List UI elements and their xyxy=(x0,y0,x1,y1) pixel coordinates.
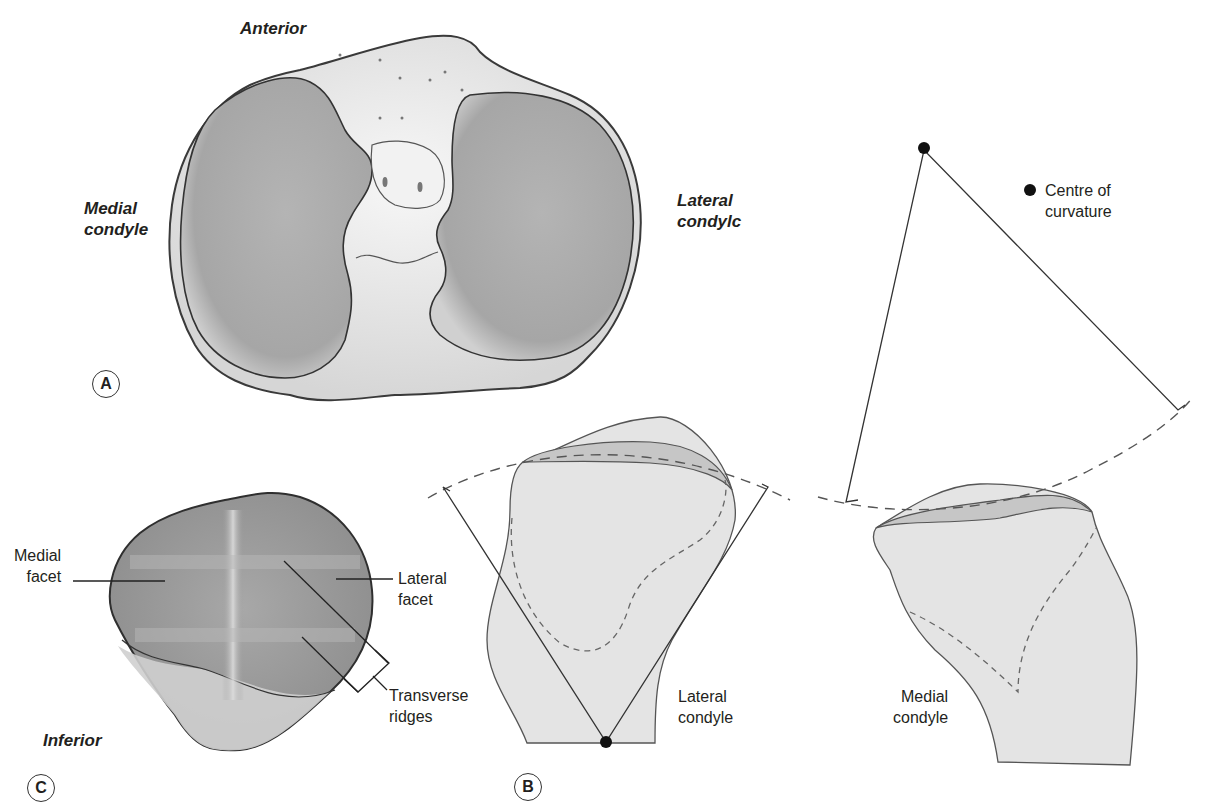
label-medial-condyle-b: Medial condyle xyxy=(893,686,948,728)
legend-centre-of-curvature: Centre of curvature xyxy=(1045,180,1112,222)
medial-radii xyxy=(846,150,1185,502)
lateral-centre-of-curvature xyxy=(600,736,612,748)
legend-marker-icon xyxy=(1024,184,1036,196)
panel-b-medial-profile xyxy=(818,142,1193,765)
panel-badge-a: A xyxy=(92,370,120,398)
label-medial-facet: Medial facet xyxy=(14,545,61,587)
label-transverse-ridges: Transverse ridges xyxy=(389,685,468,727)
label-medial-condyle-a: Medial condyle xyxy=(84,198,148,240)
medial-centre-of-curvature xyxy=(918,142,930,154)
panel-badge-c: C xyxy=(27,774,55,802)
panel-a-tibial-plateau xyxy=(169,36,640,400)
label-lateral-condyle-b: Lateral condyle xyxy=(678,686,733,728)
transverse-ridge-lower xyxy=(135,628,355,642)
label-lateral-facet: Lateral facet xyxy=(398,568,447,610)
vertical-ridge xyxy=(222,510,244,700)
panel-c-patella xyxy=(73,493,393,751)
label-inferior: Inferior xyxy=(43,730,102,751)
panel-badge-b: B xyxy=(514,773,542,801)
transverse-ridge-upper xyxy=(130,555,360,569)
figure-canvas xyxy=(0,0,1220,809)
panel-b-lateral-profile xyxy=(428,417,790,748)
lateral-condyle-surface xyxy=(430,93,633,361)
label-lateral-condyle-a: Lateral condylc xyxy=(677,190,741,232)
label-anterior: Anterior xyxy=(240,18,306,39)
